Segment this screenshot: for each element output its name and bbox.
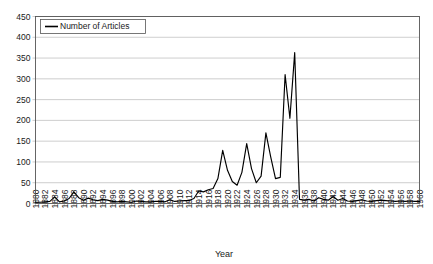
x-tick-label-1918: 1918 bbox=[213, 189, 223, 208]
x-tick-label-1948: 1948 bbox=[357, 189, 367, 208]
y-tick-label-200: 200 bbox=[16, 115, 30, 125]
x-tick-label-1902: 1902 bbox=[136, 189, 146, 208]
articles-per-year-chart: 050100150200250300350400450 188018821884… bbox=[0, 0, 433, 264]
y-tick-label-450: 450 bbox=[16, 12, 30, 22]
y-tick-label-100: 100 bbox=[16, 157, 30, 167]
x-tick-label-1898: 1898 bbox=[117, 189, 127, 208]
x-tick-label-1956: 1956 bbox=[396, 189, 406, 208]
x-tick-label-1910: 1910 bbox=[175, 189, 185, 208]
x-tick-label-1936: 1936 bbox=[300, 189, 310, 208]
x-tick-label-1924: 1924 bbox=[242, 189, 252, 208]
x-axis-title: Year bbox=[215, 249, 233, 259]
x-tick-label-1932: 1932 bbox=[280, 189, 290, 208]
legend: Number of Articles bbox=[41, 20, 146, 34]
y-tick-label-400: 400 bbox=[16, 32, 30, 42]
y-tick-label-250: 250 bbox=[16, 95, 30, 105]
chart-canvas: 050100150200250300350400450 188018821884… bbox=[0, 0, 433, 264]
x-tick-label-1904: 1904 bbox=[146, 189, 156, 208]
x-tick-label-1954: 1954 bbox=[386, 189, 396, 208]
plot-area-border bbox=[36, 17, 420, 204]
gridlines-group bbox=[33, 17, 420, 204]
y-tick-label-150: 150 bbox=[16, 136, 30, 146]
y-tick-label-50: 50 bbox=[21, 178, 31, 188]
y-axis-tick-labels: 050100150200250300350400450 bbox=[16, 12, 30, 209]
x-tick-label-1928: 1928 bbox=[261, 189, 271, 208]
x-tick-label-1952: 1952 bbox=[376, 189, 386, 208]
x-tick-label-1884: 1884 bbox=[50, 189, 60, 208]
x-tick-label-1926: 1926 bbox=[252, 189, 262, 208]
y-tick-label-300: 300 bbox=[16, 74, 30, 84]
x-tick-label-1900: 1900 bbox=[127, 189, 137, 208]
x-tick-label-1908: 1908 bbox=[165, 189, 175, 208]
y-tick-label-350: 350 bbox=[16, 53, 30, 63]
x-tick-label-1896: 1896 bbox=[108, 189, 118, 208]
x-tick-label-1930: 1930 bbox=[271, 189, 281, 208]
x-tick-label-1920: 1920 bbox=[223, 189, 233, 208]
legend-label-number-of-articles: Number of Articles bbox=[60, 21, 129, 31]
x-tick-label-1958: 1958 bbox=[405, 189, 415, 208]
x-tick-label-1906: 1906 bbox=[156, 189, 166, 208]
x-tick-label-1934: 1934 bbox=[290, 189, 300, 208]
series-line-number-of-articles bbox=[36, 53, 420, 203]
x-tick-label-1950: 1950 bbox=[367, 189, 377, 208]
x-tick-label-1916: 1916 bbox=[204, 189, 214, 208]
x-tick-label-1922: 1922 bbox=[232, 189, 242, 208]
x-tick-label-1946: 1946 bbox=[348, 189, 358, 208]
x-tick-label-1882: 1882 bbox=[40, 189, 50, 208]
